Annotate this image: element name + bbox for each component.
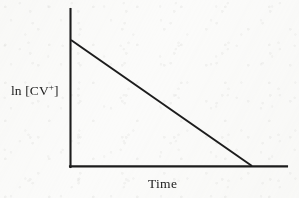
y-axis-label-close: ] [54, 83, 59, 98]
data-line-series-1 [71, 40, 252, 166]
kinetics-figure: ln [CV+] Time [0, 0, 299, 198]
y-axis-label: ln [CV+] [11, 83, 59, 98]
plot-area [0, 0, 299, 198]
y-axis-label-base: ln [CV [11, 83, 49, 98]
x-axis-label: Time [148, 177, 177, 191]
